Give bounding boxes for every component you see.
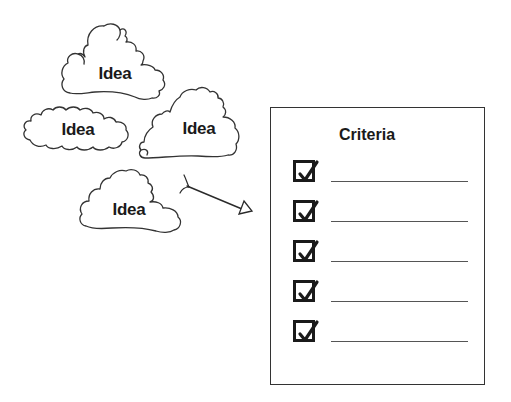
checkbox-5[interactable] bbox=[293, 320, 315, 342]
checkbox-2[interactable] bbox=[293, 200, 315, 222]
idea-label-3: Idea bbox=[182, 119, 215, 139]
criteria-blank-line-5[interactable] bbox=[331, 341, 468, 342]
checkbox-3[interactable] bbox=[293, 240, 315, 262]
diagram-canvas: Idea Idea Idea Idea Criteria bbox=[0, 0, 511, 402]
checkmark-icon bbox=[295, 318, 321, 344]
idea-label-4: Idea bbox=[112, 200, 145, 220]
checkmark-icon bbox=[295, 238, 321, 264]
criteria-title: Criteria bbox=[339, 126, 395, 144]
criteria-item-5 bbox=[293, 318, 473, 344]
idea-label-1: Idea bbox=[98, 64, 131, 84]
criteria-blank-line-2[interactable] bbox=[331, 221, 468, 222]
checkmark-icon bbox=[295, 198, 321, 224]
criteria-text-1 bbox=[331, 162, 468, 180]
arrow-tail-feather-top bbox=[184, 175, 189, 187]
criteria-item-3 bbox=[293, 238, 473, 264]
criteria-text-3 bbox=[331, 242, 468, 260]
criteria-text-4 bbox=[331, 282, 468, 300]
arrow-icon bbox=[180, 175, 252, 214]
cloud-shape-1 bbox=[62, 24, 165, 99]
criteria-blank-line-4[interactable] bbox=[331, 301, 468, 302]
criteria-checklist: Criteria bbox=[270, 107, 485, 385]
criteria-item-2 bbox=[293, 198, 473, 224]
checkbox-1[interactable] bbox=[293, 160, 315, 182]
criteria-blank-line-1[interactable] bbox=[331, 181, 468, 182]
criteria-text-2 bbox=[331, 202, 468, 220]
criteria-item-4 bbox=[293, 278, 473, 304]
idea-label-2: Idea bbox=[61, 120, 94, 140]
arrow-head bbox=[239, 201, 252, 214]
checkmark-icon bbox=[295, 278, 321, 304]
criteria-text-5 bbox=[331, 322, 468, 340]
criteria-item-1 bbox=[293, 158, 473, 184]
checkmark-icon bbox=[295, 158, 321, 184]
checkbox-4[interactable] bbox=[293, 280, 315, 302]
arrow-tail-feather-bottom bbox=[180, 187, 189, 193]
arrow-shaft bbox=[187, 186, 242, 209]
criteria-blank-line-3[interactable] bbox=[331, 261, 468, 262]
